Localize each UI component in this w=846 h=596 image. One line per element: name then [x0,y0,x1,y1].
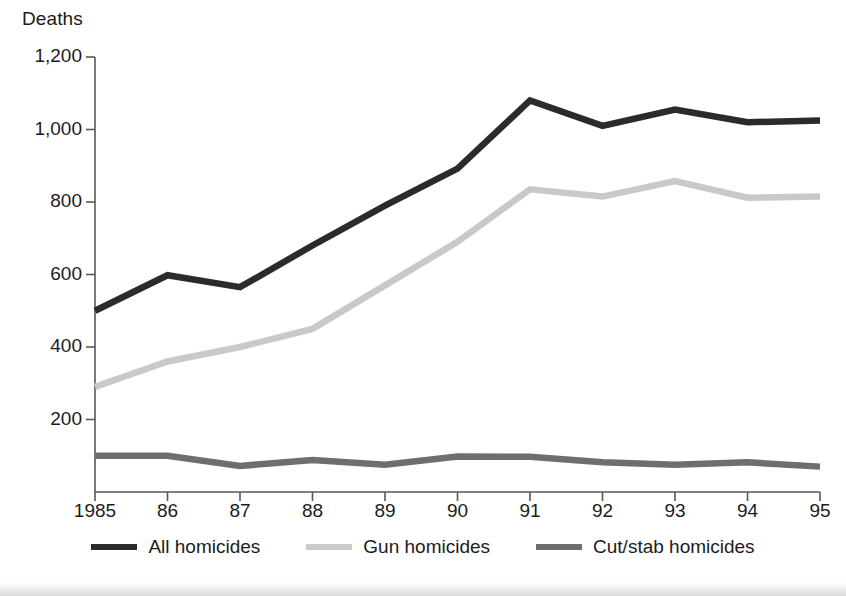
chart-legend: All homicidesGun homicidesCut/stab homic… [0,536,846,558]
y-axis-label-200: 200 [4,408,82,430]
x-axis-label-86: 86 [128,500,208,522]
x-axis-label-1985: 1985 [55,500,135,522]
x-axis-label-92: 92 [563,500,643,522]
legend-swatch-icon [91,544,137,550]
legend-label: All homicides [148,536,260,558]
x-axis-label-90: 90 [418,500,498,522]
y-axis-label-800: 800 [4,190,82,212]
legend-swatch-icon [306,544,352,550]
x-axis-label-93: 93 [635,500,715,522]
chart-series-lines [95,101,820,467]
x-axis-label-91: 91 [490,500,570,522]
series-line-all-homicides [95,101,820,311]
x-axis-label-95: 95 [780,500,846,522]
legend-label: Cut/stab homicides [593,536,755,558]
x-axis-label-89: 89 [345,500,425,522]
y-axis-label-600: 600 [4,263,82,285]
x-axis-label-88: 88 [273,500,353,522]
legend-label: Gun homicides [363,536,490,558]
x-axis-label-94: 94 [708,500,788,522]
legend-item-gun-homicides[interactable]: Gun homicides [306,536,490,558]
legend-swatch-icon [536,544,582,550]
chart-container: Deaths 2004006008001,0001,200 1985868788… [0,0,846,596]
x-axis-label-87: 87 [200,500,280,522]
y-axis-label-1000: 1,000 [4,118,82,140]
y-axis-label-1200: 1,200 [4,45,82,67]
legend-item-cut-stab-homicides[interactable]: Cut/stab homicides [536,536,755,558]
series-line-cut-stab-homicides [95,456,820,467]
legend-item-all-homicides[interactable]: All homicides [91,536,260,558]
page-edge-shadow [0,582,846,596]
y-axis-label-400: 400 [4,335,82,357]
